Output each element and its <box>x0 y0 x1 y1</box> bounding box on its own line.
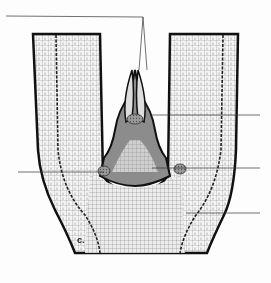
figure-caption: c. <box>77 235 85 245</box>
shoot-apex-diagram: c. <box>0 0 271 283</box>
diagram-drawing <box>0 0 271 283</box>
